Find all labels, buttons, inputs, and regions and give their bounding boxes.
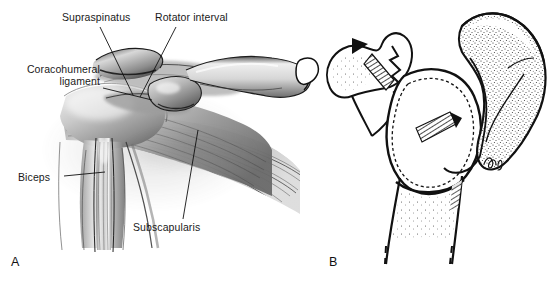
panel-a-letter: A (11, 255, 19, 269)
label-biceps: Biceps (18, 172, 50, 184)
label-rotator-interval: Rotator interval (155, 12, 228, 24)
coracoid-process (148, 77, 201, 111)
anatomy-figure: Supraspinatus Rotator interval Coracohum… (0, 0, 553, 283)
label-supraspinatus: Supraspinatus (62, 12, 130, 24)
label-coracohumeral-ligament-line1: Coracohumeral (27, 63, 100, 75)
label-coracohumeral-ligament: Coracohumeral ligament (8, 64, 100, 87)
figure-artwork (0, 0, 553, 283)
biceps-tendon (80, 138, 125, 252)
label-coracohumeral-ligament-line2: ligament (60, 75, 101, 87)
humeral-head-outline (387, 69, 481, 194)
label-subscapularis: Subscapularis (133, 222, 200, 234)
panel-b-letter: B (329, 255, 337, 269)
